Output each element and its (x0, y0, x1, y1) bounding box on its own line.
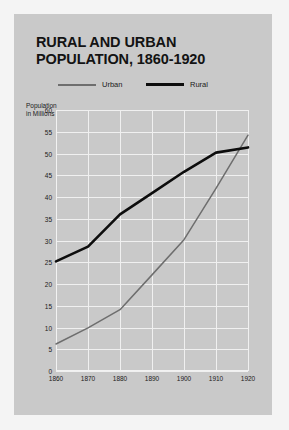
y-axis-tick-label: 50 (45, 150, 52, 157)
y-axis-tick-label: 25 (45, 259, 52, 266)
y-axis-tick-label: 0 (48, 368, 52, 375)
gridline-vertical (248, 110, 249, 371)
x-axis-tick-label: 1890 (145, 375, 159, 382)
y-axis-tick-label: 30 (45, 237, 52, 244)
plot-wrapper: 605550454035302520151050 186018701880189… (14, 14, 272, 415)
plot-area: 605550454035302520151050 186018701880189… (56, 110, 248, 371)
x-axis-tick-label: 1920 (241, 375, 255, 382)
series-line-rural (56, 147, 248, 261)
x-axis-tick-label: 1880 (113, 375, 127, 382)
y-axis-tick-label: 15 (45, 302, 52, 309)
y-axis-tick-label: 45 (45, 172, 52, 179)
x-axis-tick-label: 1860 (49, 375, 63, 382)
x-axis-tick-label: 1910 (209, 375, 223, 382)
gridline-horizontal (56, 371, 248, 372)
y-axis-tick-label: 60 (45, 107, 52, 114)
x-axis-tick-label: 1870 (81, 375, 95, 382)
y-axis-tick-label: 40 (45, 194, 52, 201)
x-axis-tick-label: 1900 (177, 375, 191, 382)
y-axis-tick-label: 20 (45, 281, 52, 288)
data-series-layer (56, 110, 248, 371)
y-axis-tick-label: 10 (45, 324, 52, 331)
y-axis-tick-label: 55 (45, 128, 52, 135)
y-axis-tick-label: 35 (45, 215, 52, 222)
series-line-urban (56, 135, 248, 344)
chart-figure: RURAL AND URBAN POPULATION, 1860-1920 Ur… (14, 14, 272, 415)
y-axis-tick-label: 5 (48, 346, 52, 353)
